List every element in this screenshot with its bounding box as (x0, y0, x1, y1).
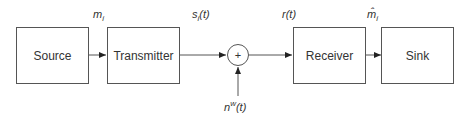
sink-label: Sink (406, 49, 429, 63)
transmitted-signal-label: si(t) (192, 8, 210, 23)
plus-icon: + (235, 49, 241, 61)
noise-arg: (t) (236, 101, 246, 113)
source-block: Source (16, 27, 89, 84)
receiver-block: Receiver (293, 27, 366, 84)
received-symbol: r(t) (282, 8, 296, 20)
message-signal-label: mi (93, 8, 104, 23)
estimate-signal-label: m̂i (367, 8, 378, 23)
message-symbol: m (93, 8, 102, 20)
adder-node: + (227, 44, 249, 66)
receiver-label: Receiver (306, 49, 353, 63)
transmitted-arg: (t) (199, 8, 209, 20)
sink-block: Sink (381, 27, 454, 84)
message-subscript: i (102, 14, 104, 23)
source-label: Source (33, 49, 71, 63)
received-signal-label: r(t) (282, 8, 296, 20)
transmitter-label: Transmitter (113, 49, 173, 63)
transmitter-block: Transmitter (107, 27, 180, 84)
noise-signal-label: nw(t) (224, 99, 246, 113)
estimate-subscript: i (376, 14, 378, 23)
estimate-symbol: m̂ (367, 8, 376, 20)
